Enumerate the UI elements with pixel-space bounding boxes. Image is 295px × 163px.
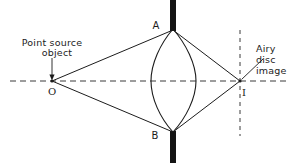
source-leader-arrowhead: [49, 75, 54, 81]
airy-disc-label-line3: image: [256, 65, 287, 76]
airy-disc-label-line2: disc: [256, 54, 276, 65]
aperture-stop-top: [170, 0, 176, 31]
point-source-label-line2: object: [42, 47, 73, 58]
ray-a-to-image: [173, 30, 240, 81]
diagram-canvas: Point source object Airy disc image O I …: [0, 0, 295, 163]
ray-object-to-b: [52, 81, 173, 132]
image-point-label-i: I: [242, 87, 246, 98]
object-point-label-o: O: [48, 86, 56, 97]
optics-ray-diagram: Point source object Airy disc image O I …: [0, 0, 295, 163]
lens-top-label-a: A: [153, 20, 160, 31]
ray-b-to-image: [173, 81, 240, 132]
aperture-stop-bottom: [170, 131, 176, 163]
lens-bottom-label-b: B: [152, 130, 159, 141]
image-point-marker: [238, 79, 241, 82]
airy-disc-label-line1: Airy: [256, 43, 276, 54]
